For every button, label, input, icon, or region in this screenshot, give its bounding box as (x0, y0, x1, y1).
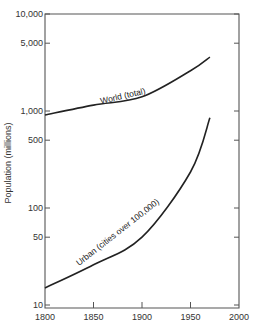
x-tick-label: 2000 (229, 312, 249, 322)
population-chart: 10501005001,0005,00010,000 1800185019001… (0, 0, 253, 330)
y-tick-label: 500 (28, 135, 43, 145)
y-axis: 10501005001,0005,00010,000 (15, 9, 239, 310)
series-lines: World (total)Urban (cities over 100,000) (45, 57, 210, 288)
x-tick-label: 1900 (132, 312, 152, 322)
y-tick-label: 1,000 (20, 106, 43, 116)
x-tick-label: 1800 (35, 312, 55, 322)
y-tick-label: 50 (33, 232, 43, 242)
plot-frame (45, 14, 239, 308)
world-total-line (45, 57, 210, 115)
x-axis: 18001850190019502000 (35, 302, 249, 322)
x-tick-label: 1950 (180, 312, 200, 322)
y-tick-label: 100 (28, 203, 43, 213)
y-tick-label: 10 (33, 300, 43, 310)
x-tick-label: 1850 (83, 312, 103, 322)
urban-line (45, 118, 210, 288)
y-axis-title: Population (millions) (3, 122, 13, 203)
y-tick-label: 5,000 (20, 38, 43, 48)
world-total-label: World (total) (99, 86, 146, 106)
y-tick-label: 10,000 (15, 9, 43, 19)
plot-border (45, 14, 239, 308)
